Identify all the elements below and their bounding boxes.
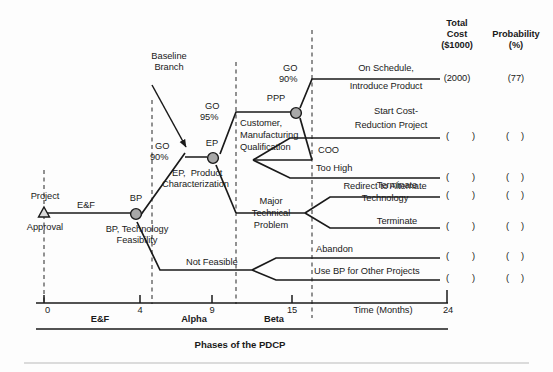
value-cost-redirect-open: ( xyxy=(446,190,449,201)
header-total-cost-units: ($1000) xyxy=(426,40,488,51)
axis-title-time: Time (Months) xyxy=(340,305,426,316)
annotation-baseline-line2: Branch xyxy=(133,62,205,73)
diagram-bottom-title: Phases of the PDCP xyxy=(150,340,330,351)
branch-label-go95-line1: GO xyxy=(205,101,219,112)
value-prob-use-bp-open: ( xyxy=(506,273,509,284)
value-prob-redirect-open: ( xyxy=(506,190,509,201)
outcome-label-terminate-major: Terminate xyxy=(352,216,442,227)
value-cost-terminate-major-close: ) xyxy=(472,221,475,232)
outcome-label-cost-reduction-line2: Reduction Project xyxy=(340,120,442,131)
outcome-label-cost-reduction-line1: Start Cost- xyxy=(350,106,442,117)
phase-label-beta: Beta xyxy=(238,314,310,325)
node-label-manufacturing: Manufacturing xyxy=(240,130,298,141)
node-label-project: Project xyxy=(22,191,68,202)
value-prob-terminate-major-open: ( xyxy=(506,221,509,232)
branch-label-major-line2: Technical xyxy=(240,208,302,219)
phase-label-alpha: Alpha xyxy=(154,314,234,325)
header-total-cost-line2: Cost xyxy=(426,29,488,40)
value-cost-cost-reduction-close: ) xyxy=(472,131,475,142)
value-prob-cost-reduction-open: ( xyxy=(506,131,509,142)
header-probability: Probability xyxy=(483,29,549,40)
node-ep[interactable] xyxy=(208,153,219,164)
branch-label-ef: E&F xyxy=(68,200,104,211)
node-label-bp-tech: BP, Technology xyxy=(93,224,181,235)
value-cost-abandon-open: ( xyxy=(446,251,449,262)
branch-label-major-line3: Problem xyxy=(240,220,302,231)
value-prob-terminate-major-close: ) xyxy=(521,221,524,232)
value-cost-terminate-major-open: ( xyxy=(446,221,449,232)
value-prob-abandon-open: ( xyxy=(506,251,509,262)
node-label-qualification: Qualification xyxy=(240,142,291,153)
header-total-cost-line1: Total xyxy=(426,18,488,29)
value-prob-cost-reduction-close: ) xyxy=(521,131,524,142)
value-cost-cost-reduction-open: ( xyxy=(446,131,449,142)
node-label-customer: Customer, xyxy=(240,118,282,129)
value-prob-use-bp-close: ) xyxy=(521,273,524,284)
axis-tick-24: 24 xyxy=(436,305,460,316)
value-prob-abandon-close: ) xyxy=(521,251,524,262)
value-cost-use-bp-close: ) xyxy=(472,273,475,284)
node-label-ep-characterization: Characterization xyxy=(162,179,229,190)
branch-label-go90a-line2: 90% xyxy=(150,152,168,163)
value-cost-on-schedule: (2000) xyxy=(426,73,488,84)
node-ppp[interactable] xyxy=(291,108,302,119)
branch-label-go90b-line2: 90% xyxy=(279,74,297,85)
value-cost-redirect-close: ) xyxy=(472,190,475,201)
outcome-label-redirect-line1: Redirect to Alternate xyxy=(328,181,442,192)
node-label-ep: EP xyxy=(196,138,228,149)
branch-label-go95-line2: 95% xyxy=(200,112,218,123)
branch-label-go90a-line1: GO xyxy=(155,141,169,152)
value-prob-redirect-close: ) xyxy=(521,190,524,201)
node-approval[interactable] xyxy=(39,207,50,217)
value-cost-use-bp-open: ( xyxy=(446,273,449,284)
decision-tree-diagram: Total Cost ($1000) Probability (%) Basel… xyxy=(0,0,553,372)
value-cost-terminate-coo-close: ) xyxy=(472,172,475,183)
node-label-ep-product: EP, Product xyxy=(172,168,222,179)
outcome-label-abandon: Abandon xyxy=(316,244,353,255)
node-label-bp-feasibility: Feasibility xyxy=(93,235,181,246)
node-bp[interactable] xyxy=(131,209,142,220)
branch-label-major-line1: Major xyxy=(240,196,302,207)
annotation-baseline-line1: Baseline xyxy=(133,51,205,62)
branch-label-not-feasible: Not Feasible xyxy=(186,257,238,268)
node-label-bp: BP xyxy=(119,193,153,204)
value-prob-on-schedule: (77) xyxy=(483,73,549,84)
outcome-label-use-bp: Use BP for Other Projects xyxy=(314,266,420,277)
value-prob-terminate-coo-open: ( xyxy=(506,172,509,183)
branch-label-go90b-line1: GO xyxy=(283,63,297,74)
value-cost-terminate-coo-open: ( xyxy=(446,172,449,183)
header-probability-units: (%) xyxy=(483,40,549,51)
time-axis xyxy=(36,290,448,303)
node-label-ppp: PPP xyxy=(258,93,294,104)
node-label-approval: Approval xyxy=(18,222,72,233)
branch-label-coo: COO xyxy=(318,145,339,156)
value-cost-abandon-close: ) xyxy=(472,251,475,262)
baseline-branch-arrow xyxy=(152,85,186,147)
outcome-label-redirect-line2: Technology xyxy=(328,193,442,204)
phase-label-ef: E&F xyxy=(60,314,140,325)
outcome-label-on-schedule-line1: On Schedule, xyxy=(330,63,442,74)
branch-label-too-high: Too High xyxy=(316,163,352,174)
value-prob-terminate-coo-close: ) xyxy=(521,172,524,183)
axis-tick-0: 0 xyxy=(45,305,50,316)
